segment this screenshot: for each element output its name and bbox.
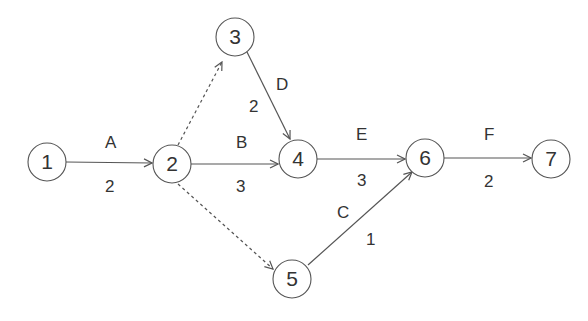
node-label-7: 7: [545, 147, 557, 170]
edge-label-activity-c: C: [337, 203, 349, 222]
edge-label-duration-e: 3: [357, 171, 366, 190]
node-label-4: 4: [292, 147, 304, 170]
edge-label-duration-a: 2: [105, 177, 114, 196]
node-label-3: 3: [229, 25, 241, 48]
edge-label-duration-d: 2: [249, 97, 258, 116]
edge-label-activity-f: F: [484, 125, 494, 144]
node-4: 4: [279, 140, 317, 178]
node-label-6: 6: [419, 146, 431, 169]
edge-1-2: [66, 162, 152, 163]
edge-label-activity-e: E: [356, 125, 367, 144]
edge-3-4: [247, 52, 290, 139]
edge-label-activity-d: D: [276, 75, 288, 94]
diagram-svg: A 2 B 3 D 2 E 3 C 1 F 2 1 2 3 4 5: [0, 0, 588, 321]
edge-label-duration-c: 1: [366, 230, 375, 249]
node-label-1: 1: [41, 150, 53, 173]
node-3: 3: [216, 18, 254, 56]
edge-2-5-dummy: [178, 184, 273, 269]
node-5: 5: [273, 260, 311, 298]
node-2: 2: [153, 145, 191, 183]
node-7: 7: [532, 140, 570, 178]
node-6: 6: [406, 139, 444, 177]
network-diagram: A 2 B 3 D 2 E 3 C 1 F 2 1 2 3 4 5: [0, 0, 588, 321]
edge-label-activity-b: B: [236, 133, 247, 152]
node-label-5: 5: [286, 267, 298, 290]
edge-label-duration-f: 2: [484, 172, 493, 191]
node-label-2: 2: [166, 152, 178, 175]
edge-label-activity-a: A: [105, 133, 117, 152]
edge-2-3-dummy: [178, 62, 222, 145]
edge-label-duration-b: 3: [236, 177, 245, 196]
node-1: 1: [28, 143, 66, 181]
